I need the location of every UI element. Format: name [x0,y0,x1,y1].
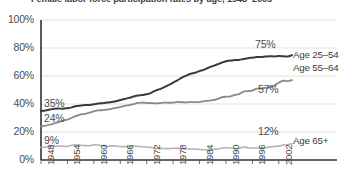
xtick-label: 1978 [177,145,188,165]
ytick-label-100: 100% [0,13,34,25]
chart-container: Female labor force participation rates b… [0,0,354,189]
ytick-label-20: 20% [0,125,34,137]
ytick-label-80: 80% [0,41,34,53]
ytick-label-40: 40% [0,97,34,109]
xtick-label: 1954 [71,145,82,165]
gridlines [41,20,337,132]
xtick-label: 1960 [98,145,109,165]
ytick-label-0: 0% [0,153,34,165]
value-label-end-65: 12% [258,125,278,137]
xtick-label: 1948 [45,145,56,165]
value-label-start-25-54: 35% [44,97,64,109]
xtick-label: 1966 [124,145,135,165]
series-label-25-54: Age 25–54 [293,49,339,60]
value-label-start-55-64: 24% [44,112,64,124]
series-label-55-64: Age 55–64 [293,62,339,73]
series-label-65: Age 65+ [293,135,328,146]
series-lines [41,55,292,150]
xtick-label: 1990 [230,145,241,165]
xtick-label: 1996 [256,145,267,165]
ytick-label-60: 60% [0,69,34,81]
xtick-label: 1984 [204,145,215,165]
xtick-label: 1972 [151,145,162,165]
value-label-end-25-54: 75% [255,38,275,50]
xtick-label: 2002 [283,145,294,165]
value-label-end-55-64: 57% [258,83,278,95]
value-label-start-65: 9% [44,134,59,146]
